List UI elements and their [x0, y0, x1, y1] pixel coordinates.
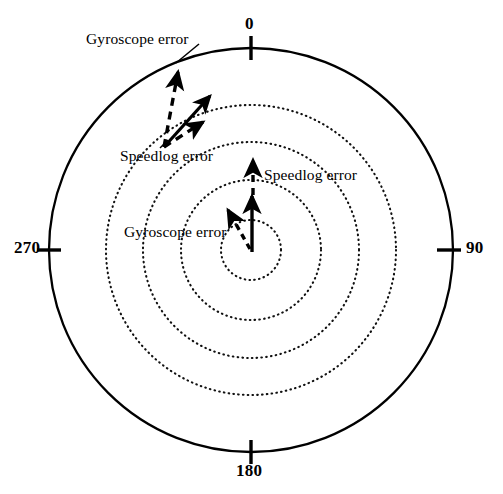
- gyroscope-error-inner-vector: [228, 210, 250, 249]
- annotation-speedlog-error-outer: Speedlog error: [120, 147, 213, 165]
- polar-plot-canvas: [0, 0, 503, 494]
- bearing-label-0: 0: [245, 14, 254, 34]
- bearing-label-270: 270: [14, 238, 40, 258]
- bearing-label-180: 180: [236, 461, 262, 481]
- annotation-gyroscope-error-outer: Gyroscope error: [86, 30, 189, 48]
- annotation-gyroscope-error-inner: Gyroscope error: [124, 223, 227, 241]
- polar-diagram-figure: 0 90 180 270 Gyroscope error Speedlog er…: [0, 0, 503, 494]
- bearing-label-90: 90: [466, 238, 483, 258]
- annotation-speedlog-error-inner: Speedlog error: [264, 166, 357, 184]
